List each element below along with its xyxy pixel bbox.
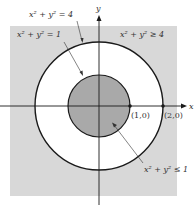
outer-region-label: x² + y² ≥ 4 [120, 30, 164, 39]
x-axis-arrow-icon [181, 104, 187, 109]
point-2-0 [161, 104, 165, 108]
inner-region-label: x² + y² ≤ 1 [144, 165, 188, 174]
circle-region-diagram: x y (1,0) (2,0) x² + y² = 4 x² + y² = 1 … [0, 0, 196, 205]
point-2-0-label: (2,0) [164, 111, 183, 120]
point-1-0-label: (1,0) [131, 111, 150, 120]
inner-circle-label: x² + y² = 1 [17, 30, 61, 39]
point-1-0 [128, 104, 132, 108]
y-axis-arrow-icon [97, 15, 102, 21]
y-axis-label: y [95, 4, 101, 13]
x-axis-label: x [189, 102, 194, 111]
outer-circle-label: x² + y² = 4 [29, 10, 73, 19]
